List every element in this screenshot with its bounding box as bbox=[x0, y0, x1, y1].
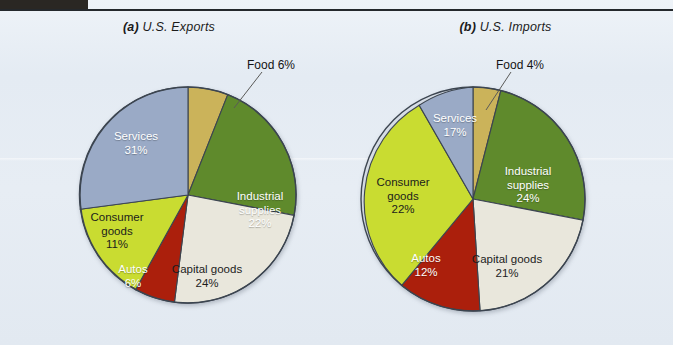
chart-b-title: (b) U.S. Imports bbox=[338, 20, 673, 34]
pie-a-slice-services[interactable] bbox=[79, 87, 188, 209]
pie-a-food-leader-line bbox=[226, 70, 266, 110]
chart-us-exports: (a) U.S. Exports Services 31% Industrial… bbox=[0, 0, 338, 345]
chart-b-title-text: U.S. Imports bbox=[476, 20, 552, 34]
pie-b-food-leader-line bbox=[478, 70, 518, 112]
chart-b-title-tag: (b) bbox=[459, 20, 476, 34]
pie-a-svg bbox=[77, 84, 299, 306]
pie-chart-a bbox=[77, 84, 299, 306]
pie-b-svg bbox=[358, 84, 588, 314]
pie-chart-b bbox=[358, 84, 588, 314]
chart-a-title-text: U.S. Exports bbox=[139, 20, 215, 34]
chart-a-title: (a) U.S. Exports bbox=[0, 20, 338, 34]
pie-a-callout-food: Food 6% bbox=[247, 58, 295, 72]
chart-us-imports: (b) U.S. Imports Services 17% Industrial… bbox=[338, 0, 673, 345]
chart-a-title-tag: (a) bbox=[123, 20, 139, 34]
pie-b-callout-food: Food 4% bbox=[496, 58, 544, 72]
